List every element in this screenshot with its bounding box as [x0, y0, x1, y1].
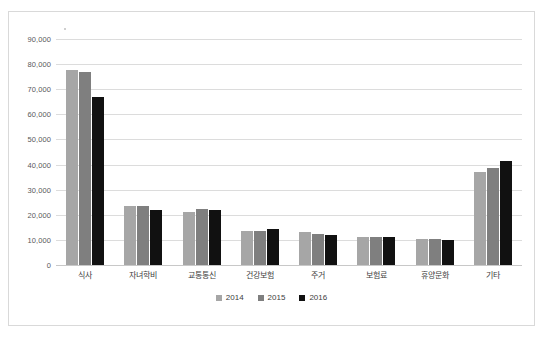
bar-2015-교통통신 [196, 209, 208, 266]
stray-mark [64, 28, 66, 30]
bar-2015-보험료 [370, 237, 382, 265]
x-tick-label: 기타 [486, 269, 500, 280]
legend-item-2016[interactable]: 2016 [299, 293, 327, 302]
legend-item-2015[interactable]: 2015 [258, 293, 286, 302]
x-tick-label: 교통통신 [188, 269, 216, 280]
bar-2016-보험료 [383, 237, 395, 265]
y-tick-label: 50,000 [27, 135, 51, 144]
legend-swatch-icon [258, 295, 264, 301]
bar-group [289, 39, 347, 265]
bar-2015-휴양문화 [429, 239, 441, 265]
bar-2015-식사 [79, 72, 91, 265]
legend-swatch-icon [216, 295, 222, 301]
bar-2016-식사 [92, 97, 104, 265]
bar-2015-건강보험 [254, 231, 266, 265]
bar-2016-교통통신 [209, 210, 221, 265]
bar-group [114, 39, 172, 265]
y-tick-label: 60,000 [27, 110, 51, 119]
legend-swatch-icon [299, 295, 305, 301]
y-axis: 90,00080,00070,00060,00050,00040,00030,0… [9, 39, 51, 265]
bar-2016-자녀학비 [150, 210, 162, 265]
y-tick-label: 0 [47, 261, 51, 270]
bar-2015-자녀학비 [137, 206, 149, 265]
x-axis-line [56, 265, 522, 266]
bar-2014-휴양문화 [416, 239, 428, 265]
legend-item-2014[interactable]: 2014 [216, 293, 244, 302]
y-tick-label: 20,000 [27, 210, 51, 219]
bar-2016-건강보험 [267, 229, 279, 265]
chart-container: 90,00080,00070,00060,00050,00040,00030,0… [8, 11, 535, 326]
x-tick-label: 자녀학비 [129, 269, 157, 280]
x-tick-label: 식사 [78, 269, 92, 280]
x-tick-label: 휴양문화 [421, 269, 449, 280]
bars-layer [56, 39, 522, 265]
x-tick-label: 건강보험 [246, 269, 274, 280]
legend-label: 2015 [268, 293, 286, 302]
x-tick-label: 보험료 [366, 269, 387, 280]
y-tick-label: 90,000 [27, 35, 51, 44]
bar-2016-주거 [325, 235, 337, 265]
bar-2016-휴양문화 [442, 240, 454, 265]
bar-2014-주거 [299, 232, 311, 265]
legend: 201420152016 [9, 293, 534, 302]
bar-group [347, 39, 405, 265]
bar-2015-기타 [487, 168, 499, 265]
bar-2014-보험료 [357, 237, 369, 265]
bar-2015-주거 [312, 234, 324, 265]
y-tick-label: 80,000 [27, 60, 51, 69]
bar-2014-자녀학비 [124, 206, 136, 265]
bar-group [231, 39, 289, 265]
bar-group [464, 39, 522, 265]
legend-label: 2016 [309, 293, 327, 302]
x-tick-label: 주거 [311, 269, 325, 280]
bar-2014-건강보험 [241, 231, 253, 265]
bar-2014-교통통신 [183, 212, 195, 265]
y-tick-label: 30,000 [27, 185, 51, 194]
bar-2014-식사 [66, 70, 78, 265]
legend-label: 2014 [226, 293, 244, 302]
bar-group [56, 39, 114, 265]
bar-group [406, 39, 464, 265]
y-tick-label: 70,000 [27, 85, 51, 94]
bar-2014-기타 [474, 172, 486, 265]
x-axis: 식사자녀학비교통통신건강보험주거보험료휴양문화기타 [56, 269, 522, 285]
y-tick-label: 10,000 [27, 235, 51, 244]
bar-group [173, 39, 231, 265]
y-tick-label: 40,000 [27, 160, 51, 169]
bar-2016-기타 [500, 161, 512, 265]
